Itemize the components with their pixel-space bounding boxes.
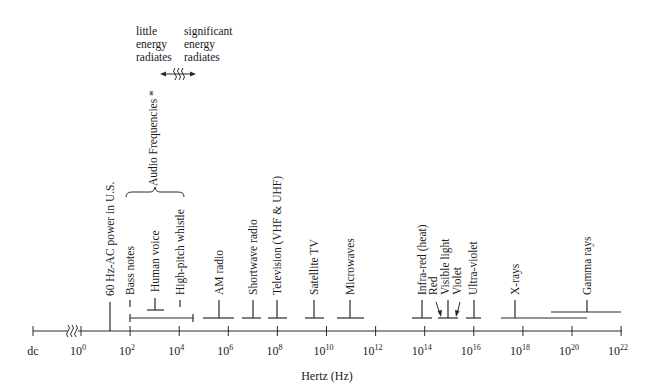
band-television: Television (VHF & UHF)	[268, 176, 287, 318]
frequency-axis: dc 1001021041061081010101210141016101810…	[27, 325, 628, 383]
axis-tick-label: 1016	[461, 343, 481, 358]
axis-tick-label: 104	[168, 343, 184, 358]
significant-energy-line-1: significant	[184, 25, 233, 38]
band-satellite-tv: Satellite TV	[305, 239, 324, 318]
audio-frequencies-group: Audio Frequencies *	[126, 90, 184, 197]
spectrum-diagram: dc 1001021041061081010101210141016101810…	[0, 0, 660, 390]
axis-tick-label: 1018	[510, 343, 530, 358]
band-bass-notes: Bass notes	[124, 246, 136, 307]
band-human-voice: Human voice	[147, 230, 164, 310]
violet-arrow-icon	[455, 310, 460, 317]
band-shortwave-radio: Shortwave radio	[242, 219, 261, 318]
double-arrow-icon	[160, 68, 196, 80]
band-violet: Violet	[451, 266, 463, 317]
band-label-violet: Violet	[451, 266, 463, 295]
band-label-gamma-rays: Gamma rays	[581, 236, 594, 295]
band-label-bass-notes: Bass notes	[124, 246, 136, 295]
axis-tick-label: 1010	[314, 343, 334, 358]
dc-label: dc	[27, 344, 38, 358]
axis-tick-label: 108	[266, 343, 282, 358]
band-am-radio: AM radio	[203, 250, 234, 318]
significant-energy-line-2: energy	[184, 38, 215, 51]
band-microwaves: Microwaves	[337, 238, 364, 318]
band-audio-range	[130, 314, 193, 322]
band-label-shortwave-radio: Shortwave radio	[247, 219, 259, 295]
little-energy-line-2: energy	[136, 38, 167, 51]
band-label-high-pitch-whistle: High-pitch whistle	[174, 209, 187, 295]
band-label-ultra-violet: Ultra-violet	[467, 241, 479, 295]
band-60hz: 60 Hz-AC power in U.S.	[104, 182, 117, 331]
little-energy-line-3: radiates	[136, 51, 172, 63]
band-label-x-rays: X-rays	[509, 263, 522, 295]
axis-title: Hertz (Hz)	[301, 369, 353, 383]
band-label-60hz: 60 Hz-AC power in U.S.	[104, 182, 117, 296]
significant-energy-line-3: radiates	[184, 51, 220, 63]
axis-tick-label: 106	[217, 343, 233, 358]
band-high-pitch-whistle: High-pitch whistle	[174, 209, 187, 307]
band-infra-red: Infra-red (heat)	[412, 224, 432, 318]
axis-tick-label: 1012	[363, 343, 383, 358]
energy-note: little energy radiates significant energ…	[136, 25, 233, 80]
band-ultra-violet: Ultra-violet	[466, 241, 481, 318]
band-label-satellite-tv: Satellite TV	[308, 239, 320, 295]
audio-brace	[126, 187, 184, 197]
band-label-human-voice: Human voice	[149, 230, 161, 292]
band-label-television: Television (VHF & UHF)	[271, 176, 284, 295]
band-label-red: Red	[427, 276, 439, 295]
axis-tick-label: 1014	[412, 343, 432, 358]
audio-frequencies-label: Audio Frequencies *	[147, 90, 160, 186]
red-arrow-icon	[438, 310, 443, 317]
axis-tick-label: 102	[119, 343, 135, 358]
band-label-microwaves: Microwaves	[344, 238, 356, 295]
axis-tick-label: 100	[70, 343, 86, 358]
axis-tick-label: 1022	[608, 343, 628, 358]
axis-tick-label: 1020	[559, 343, 579, 358]
axis-tick-labels: 1001021041061081010101210141016101810201…	[70, 343, 628, 358]
band-label-am-radio: AM radio	[213, 250, 225, 295]
band-x-rays: X-rays	[501, 263, 587, 318]
little-energy-line-1: little	[136, 25, 157, 37]
axis-break-icon	[67, 325, 78, 337]
band-gamma-rays: Gamma rays	[551, 236, 621, 312]
